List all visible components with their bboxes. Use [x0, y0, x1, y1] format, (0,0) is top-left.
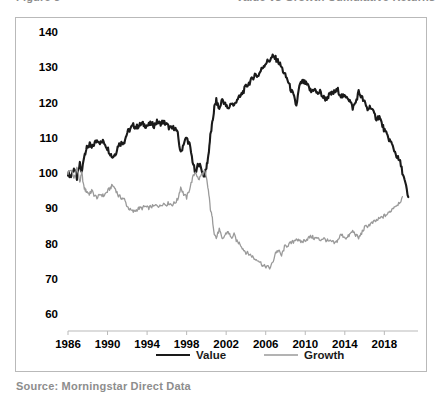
chart-legend: ValueGrowth — [156, 349, 344, 361]
series-line-value — [68, 55, 408, 197]
y-tick-label: 60 — [45, 308, 58, 320]
x-axis-tick-labels: 198619901994199820022006201020142018 — [55, 338, 398, 350]
source-note-fragment: Source: Morningstar Direct Data — [16, 380, 191, 392]
top-caption-right-fragment: Value vs Growth Cumulative Returns — [236, 0, 435, 3]
x-tick-label: 1994 — [134, 338, 160, 350]
y-tick-label: 140 — [39, 26, 58, 38]
x-tick-label: 1990 — [95, 338, 121, 350]
y-tick-label: 90 — [45, 202, 58, 214]
data-series-group — [68, 55, 408, 269]
y-tick-label: 130 — [39, 61, 58, 73]
top-clipped-caption: Figure 3 Value vs Growth Cumulative Retu… — [0, 0, 442, 5]
line-chart-svg: 60708090100110120130140 1986199019941998… — [16, 18, 428, 373]
y-tick-label: 120 — [39, 97, 58, 109]
legend-label-value: Value — [196, 349, 226, 361]
axis-lines — [68, 331, 418, 335]
chart-frame: 60708090100110120130140 1986199019941998… — [15, 17, 427, 372]
bottom-clipped-source: Source: Morningstar Direct Data — [0, 380, 442, 393]
y-tick-label: 80 — [45, 238, 58, 250]
top-caption-left-fragment: Figure 3 — [16, 0, 60, 3]
series-line-growth — [68, 167, 402, 269]
y-tick-label: 100 — [39, 167, 58, 179]
y-axis-tick-labels: 60708090100110120130140 — [39, 26, 58, 320]
y-tick-label: 70 — [45, 273, 58, 285]
x-tick-label: 2018 — [372, 338, 398, 350]
legend-label-growth: Growth — [304, 349, 344, 361]
x-tick-label: 2006 — [253, 338, 279, 350]
y-tick-label: 110 — [39, 132, 58, 144]
chart-plot-area: 60708090100110120130140 1986199019941998… — [16, 18, 428, 373]
x-tick-label: 1986 — [55, 338, 81, 350]
